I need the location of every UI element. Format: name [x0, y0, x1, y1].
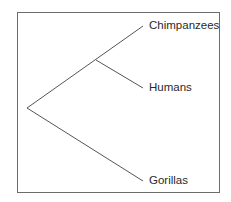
branch-root-to-gorillas [27, 108, 143, 181]
leaf-label-humans: Humans [149, 82, 192, 94]
leaf-label-gorillas: Gorillas [149, 175, 188, 187]
branch-node-to-humans [96, 60, 143, 88]
branch-root-to-chimpanzees [27, 26, 143, 108]
leaf-label-chimpanzees: Chimpanzees [149, 20, 219, 32]
